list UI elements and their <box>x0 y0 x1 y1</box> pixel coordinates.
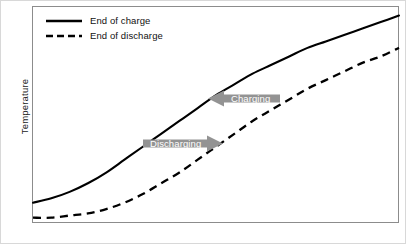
annotation-discharging-label: Discharging <box>150 138 201 149</box>
chart-figure: Temperature End of charge End of dischar… <box>0 0 406 244</box>
legend-item-end-of-discharge: End of discharge <box>45 28 225 43</box>
legend-dashed-line-icon <box>45 30 83 42</box>
annotation-discharging: Discharging <box>143 135 223 152</box>
chart-legend: End of charge End of discharge <box>45 13 225 43</box>
legend-solid-line-icon <box>45 15 83 27</box>
annotation-charging-label: Charging <box>231 93 270 104</box>
y-axis-title: Temperature <box>19 37 30 177</box>
legend-item-end-of-charge: End of charge <box>45 13 225 28</box>
annotation-charging: Charging <box>208 90 280 107</box>
legend-label-end-of-charge: End of charge <box>90 15 150 26</box>
legend-label-end-of-discharge: End of discharge <box>90 30 163 41</box>
